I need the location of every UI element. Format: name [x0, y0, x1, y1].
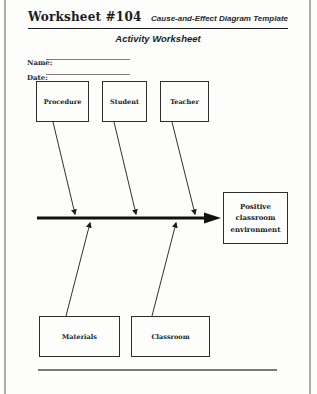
spine-arrowhead-icon [204, 213, 221, 224]
bone-procedure [53, 122, 75, 214]
bone-classroom [152, 223, 176, 316]
cause-box-materials: Materials [39, 316, 120, 357]
bone-teacher [172, 122, 195, 214]
bone-materials [66, 223, 90, 316]
worksheet-page: Worksheet #104 Cause-and-Effect Diagram … [0, 0, 317, 394]
effect-box: Positive classroom environment [223, 192, 288, 244]
cause-box-teacher: Teacher [160, 81, 209, 122]
cause-box-procedure: Procedure [36, 81, 89, 122]
bottom-rule [38, 369, 277, 371]
cause-box-classroom: Classroom [131, 316, 210, 357]
cause-box-student: Student [102, 81, 147, 122]
bone-student [114, 122, 136, 214]
